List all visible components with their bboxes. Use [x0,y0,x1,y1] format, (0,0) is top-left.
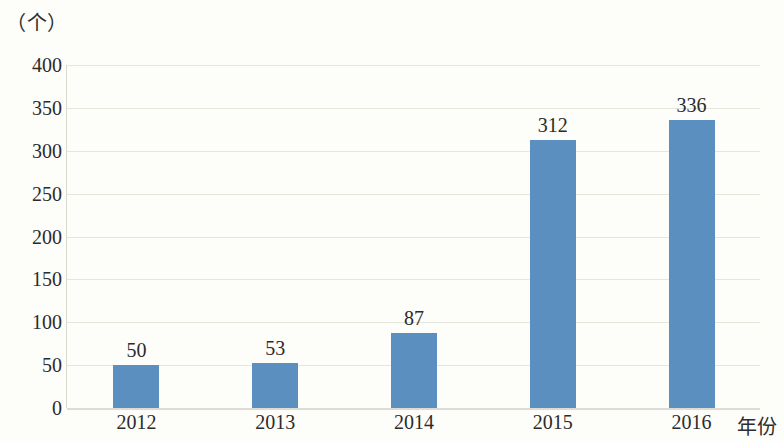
x-axis-tick-label: 2012 [116,411,156,434]
bar-chart-figure: （个） 400350300250200150100500 50201253201… [0,0,784,441]
x-axis-tick-label: 2014 [394,411,434,434]
y-axis-tick-label: 300 [10,139,62,162]
bar[interactable] [669,120,715,408]
bar-value-label: 312 [538,114,568,137]
x-axis-tick-label: 2015 [533,411,573,434]
gridline [67,408,760,410]
bar-group: 872014 [345,65,484,408]
y-axis-tick-label: 250 [10,182,62,205]
x-axis-tick-label: 2013 [255,411,295,434]
y-axis-unit-label: （个） [6,7,68,36]
bar[interactable] [113,365,159,408]
bar-value-label: 50 [126,339,146,362]
y-axis-tick-label: 150 [10,268,62,291]
bars-layer: 50201253201387201431220153362016 [67,65,760,408]
bar[interactable] [530,140,576,408]
bar-value-label: 87 [404,307,424,330]
y-axis-tick-label: 100 [10,311,62,334]
y-axis-tick-label: 0 [10,397,62,420]
bar-group: 3362016 [622,65,761,408]
y-axis-tick-label: 400 [10,54,62,77]
bar[interactable] [391,333,437,408]
y-axis-tick-label: 200 [10,225,62,248]
bar-group: 3122015 [483,65,622,408]
plot-area: 50201253201387201431220153362016 [66,65,760,408]
x-axis-tick-label: 2016 [672,411,712,434]
bar-value-label: 53 [265,337,285,360]
bar-group: 502012 [67,65,206,408]
bar-value-label: 336 [677,94,707,117]
y-axis-tick-label: 50 [10,354,62,377]
x-axis-title: 年份 [737,411,777,440]
y-axis-tick-label: 350 [10,96,62,119]
bar-group: 532013 [206,65,345,408]
bar[interactable] [252,363,298,408]
